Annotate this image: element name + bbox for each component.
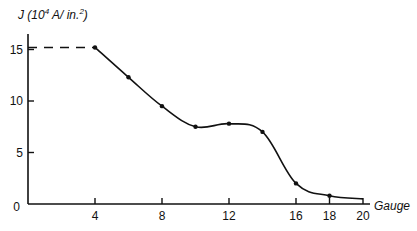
data-point [227,121,231,125]
data-point [126,75,130,79]
data-point [93,45,97,49]
data-point [260,130,264,134]
y-axis-title: J (104 A/ in.2) [17,7,88,22]
y-ticks: 051015 [10,43,34,215]
axes [28,34,370,204]
data-point [193,125,197,129]
data-point [294,181,298,185]
current-density-chart: 051015 4812161820 J (104 A/ in.2) Gauge [0,0,417,231]
x-tick-label: 20 [356,209,370,223]
x-tick-label: 16 [289,209,303,223]
y-tick-label: 10 [10,94,24,108]
data-point [327,194,331,198]
data-point-markers [93,45,332,198]
x-tick-label: 18 [323,209,337,223]
y-tick-label: 15 [10,43,24,57]
x-axis-title: Gauge [374,199,410,213]
x-ticks: 4812161820 [92,198,370,223]
x-tick-label: 12 [222,209,236,223]
x-tick-label: 8 [159,209,166,223]
x-tick-label: 4 [92,209,99,223]
data-point [160,104,164,108]
y-tick-label: 5 [16,146,23,160]
y-tick-label: 0 [13,200,20,214]
